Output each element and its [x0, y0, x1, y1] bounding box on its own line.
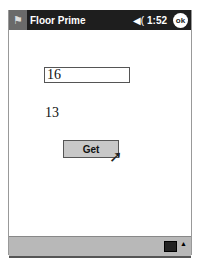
result-text: 13	[45, 105, 59, 121]
ok-button[interactable]: ok	[173, 13, 188, 28]
clock[interactable]: 1:52	[147, 15, 167, 26]
title-bar: ⚑ Floor Prime ◀( 1:52 ok	[9, 10, 191, 30]
mouse-cursor-icon: ➚	[109, 147, 122, 166]
input-panel-arrow-icon[interactable]: ▲	[180, 240, 187, 247]
start-menu-button[interactable]: ⚑	[9, 10, 27, 30]
speaker-icon[interactable]: ◀(	[133, 15, 144, 26]
windows-flag-icon: ⚑	[13, 14, 23, 27]
bottom-menu-bar: ▲	[9, 236, 191, 258]
keyboard-icon[interactable]	[164, 241, 177, 252]
number-input[interactable]: 16	[44, 67, 130, 83]
device-screen: ⚑ Floor Prime ◀( 1:52 ok 16 13 Get ➚ ▲	[8, 10, 192, 255]
app-title: Floor Prime	[30, 15, 133, 26]
